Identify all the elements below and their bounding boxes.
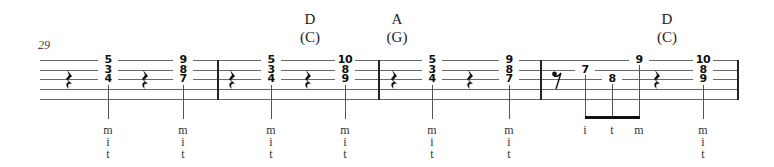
fret-number: 7 xyxy=(173,74,193,84)
note-stem xyxy=(183,85,184,119)
fret-number: 7 xyxy=(575,65,595,75)
note-stem xyxy=(509,85,510,119)
note-stem xyxy=(432,85,433,119)
capo-chord-symbol: (G) xyxy=(377,29,417,46)
fret-number: 4 xyxy=(98,74,118,84)
note-stem xyxy=(345,85,346,119)
fingering-label: t xyxy=(101,148,115,160)
fingering-label: t xyxy=(425,148,439,160)
fret-number: 7 xyxy=(499,74,519,84)
quarter-rest-icon xyxy=(388,69,400,91)
eighth-rest-icon xyxy=(551,70,563,92)
quarter-rest-icon xyxy=(63,69,75,91)
measure-number: 29 xyxy=(38,38,50,53)
fingering-label: m xyxy=(632,124,646,136)
capo-chord-symbol: (C) xyxy=(290,29,330,46)
barline xyxy=(378,60,380,100)
quarter-rest-icon xyxy=(651,69,663,91)
note-stem xyxy=(639,65,640,117)
fret-number: 9 xyxy=(629,55,649,65)
fingering-label: t xyxy=(605,124,619,136)
fingering-label: t xyxy=(696,148,710,160)
fret-number: 4 xyxy=(422,74,442,84)
fingering-label: t xyxy=(502,148,516,160)
barline xyxy=(737,60,739,100)
quarter-rest-icon xyxy=(139,69,151,91)
note-stem xyxy=(271,85,272,119)
fret-number: 9 xyxy=(335,74,355,84)
fingering-label: t xyxy=(338,148,352,160)
fingering-label: t xyxy=(176,148,190,160)
staff-line xyxy=(40,99,738,100)
fingering-label: t xyxy=(264,148,278,160)
barline xyxy=(540,60,542,100)
note-stem xyxy=(612,84,613,117)
note-stem xyxy=(703,85,704,119)
quarter-rest-icon xyxy=(464,69,476,91)
chord-symbol: D xyxy=(290,11,330,28)
chord-symbol: D xyxy=(647,11,687,28)
quarter-rest-icon xyxy=(226,69,238,91)
barline xyxy=(217,60,219,100)
quarter-rest-icon xyxy=(302,69,314,91)
note-stem xyxy=(585,75,586,117)
capo-chord-symbol: (C) xyxy=(647,29,687,46)
note-beam xyxy=(585,116,640,119)
fret-number: 9 xyxy=(693,74,713,84)
fret-number: 8 xyxy=(602,74,622,84)
fingering-label: i xyxy=(578,124,592,136)
fret-number: 4 xyxy=(261,74,281,84)
note-stem xyxy=(108,85,109,119)
chord-symbol: A xyxy=(377,11,417,28)
